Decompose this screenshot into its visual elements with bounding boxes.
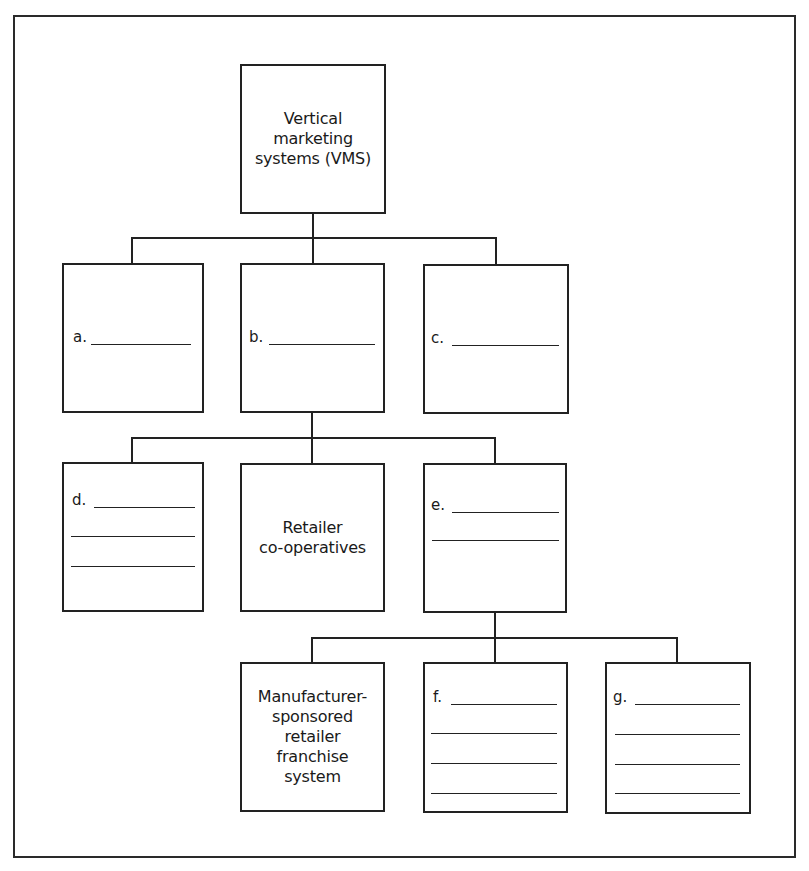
node-b: b. [240, 263, 385, 413]
connector-e-down [494, 612, 496, 639]
connector-to-c [495, 237, 497, 265]
node-g-blank-1[interactable] [635, 704, 740, 705]
node-f-blank-1[interactable] [451, 704, 557, 705]
connector-root-down [312, 213, 314, 239]
connector-level2-bar [131, 437, 496, 439]
node-vms-line-2: marketing [255, 129, 371, 149]
node-d-blank-2[interactable] [71, 536, 195, 537]
node-e: e. [423, 463, 567, 613]
node-g-blank-3[interactable] [615, 764, 740, 765]
node-e-label: e. [431, 497, 445, 513]
node-f-label: f. [433, 689, 442, 705]
node-manufacturer-line-3: retailer [258, 727, 367, 747]
node-manufacturer-line-2: sponsored [258, 707, 367, 727]
node-b-label: b. [249, 329, 263, 345]
node-manufacturer-line-4: franchise [258, 747, 367, 767]
node-retailer-line-1: Retailer [259, 518, 366, 538]
connector-to-a [131, 237, 133, 264]
node-g-blank-2[interactable] [615, 734, 740, 735]
connector-b-down [311, 412, 313, 439]
node-retailer-line-2: co-operatives [259, 538, 366, 558]
node-retailer-cooperatives: Retailer co-operatives [240, 463, 385, 612]
node-e-blank-1[interactable] [452, 512, 559, 513]
node-d-blank-3[interactable] [71, 566, 195, 567]
connector-to-d [131, 437, 133, 463]
node-f-blank-3[interactable] [431, 763, 557, 764]
node-g: g. [605, 662, 751, 814]
node-f-blank-2[interactable] [431, 733, 557, 734]
node-d-blank-1[interactable] [94, 507, 195, 508]
node-e-blank-2[interactable] [432, 540, 559, 541]
node-c: c. [423, 264, 569, 414]
connector-level1-bar [131, 237, 497, 239]
connector-to-b [312, 237, 314, 264]
connector-to-retailer [311, 437, 313, 464]
node-d: d. [62, 462, 204, 612]
node-g-label: g. [613, 689, 627, 705]
connector-to-f [494, 637, 496, 663]
connector-to-e [494, 437, 496, 464]
node-a: a. [62, 263, 204, 413]
node-c-blank-1[interactable] [452, 345, 559, 346]
node-manufacturer-franchise: Manufacturer- sponsored retailer franchi… [240, 662, 385, 812]
connector-to-manufacturer [311, 637, 313, 663]
node-vms-line-3: systems (VMS) [255, 149, 371, 169]
node-manufacturer-line-1: Manufacturer- [258, 687, 367, 707]
node-b-blank-1[interactable] [269, 344, 375, 345]
node-d-label: d. [72, 492, 86, 508]
node-vms-line-1: Vertical [255, 109, 371, 129]
node-f: f. [423, 662, 568, 813]
node-a-blank-1[interactable] [91, 344, 191, 345]
node-a-label: a. [73, 329, 87, 345]
node-manufacturer-line-5: system [258, 767, 367, 787]
node-f-blank-4[interactable] [431, 793, 557, 794]
node-vms: Vertical marketing systems (VMS) [240, 64, 386, 214]
node-c-label: c. [431, 330, 444, 346]
connector-to-g [676, 637, 678, 663]
node-g-blank-4[interactable] [615, 793, 740, 794]
